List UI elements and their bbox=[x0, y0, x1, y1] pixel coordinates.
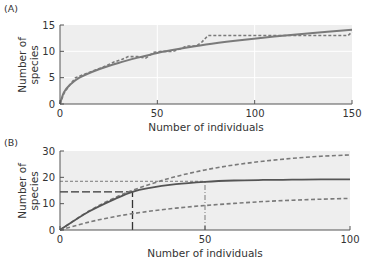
panel-b-ytick-0: 0 bbox=[49, 225, 55, 236]
panel-a-ytick-10: 10 bbox=[42, 46, 55, 57]
panel-b-x-axis-title: Number of individuals bbox=[147, 247, 262, 259]
panel-a-xtick-150: 150 bbox=[342, 108, 361, 119]
panel-b-y-axis-title-line2: species bbox=[28, 171, 40, 210]
panel-b-label: (B) bbox=[4, 137, 18, 148]
panel-a-x-axis-title: Number of individuals bbox=[148, 121, 263, 133]
figure: (A) 0 50 100 150 0 5 10 15 Number of ind… bbox=[0, 0, 374, 272]
panel-a: (A) 0 50 100 150 0 5 10 15 Number of ind… bbox=[4, 3, 362, 133]
panel-a-ytick-5: 5 bbox=[49, 72, 55, 83]
panel-a-label: (A) bbox=[4, 3, 18, 14]
panel-b-xtick-50: 50 bbox=[199, 234, 212, 245]
panel-b-ytick-20: 20 bbox=[42, 172, 55, 183]
panel-a-xtick-100: 100 bbox=[245, 108, 264, 119]
panel-b-ytick-30: 30 bbox=[42, 146, 55, 157]
panel-b-y-axis-title-line1: Number of bbox=[16, 163, 28, 219]
panel-b-ytick-10: 10 bbox=[42, 198, 55, 209]
panel-b: (B) 0 50 100 0 10 20 30 Number of indivi… bbox=[4, 137, 360, 259]
panel-a-ytick-0: 0 bbox=[49, 99, 55, 110]
panel-a-ytick-15: 15 bbox=[42, 20, 55, 31]
panel-a-y-axis-title-line2: species bbox=[28, 45, 40, 84]
panel-b-xtick-100: 100 bbox=[340, 234, 359, 245]
panel-a-y-axis-title-line1: Number of bbox=[16, 37, 28, 93]
panel-a-xtick-0: 0 bbox=[57, 108, 63, 119]
panel-b-xtick-0: 0 bbox=[57, 234, 63, 245]
panel-a-xtick-50: 50 bbox=[151, 108, 164, 119]
